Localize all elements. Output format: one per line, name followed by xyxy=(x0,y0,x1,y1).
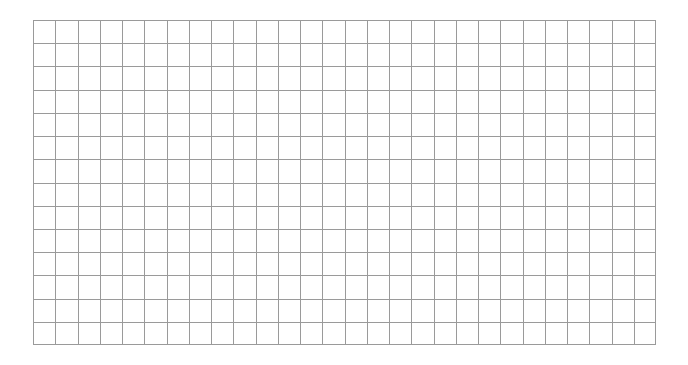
grid-canvas xyxy=(33,20,656,345)
grid-lines xyxy=(33,20,656,345)
